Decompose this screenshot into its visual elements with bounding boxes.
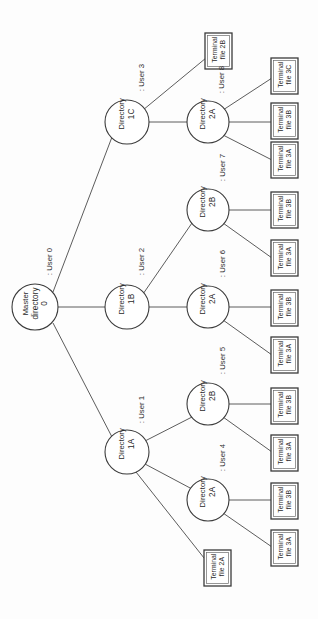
leaf-box-leaf-2a[interactable] xyxy=(204,550,231,586)
leaf-box-leaf-3a-2[interactable] xyxy=(271,240,298,276)
edges-group xyxy=(53,58,272,563)
leaf-box-leaf-3a-1[interactable] xyxy=(271,142,298,178)
edge-dir-1a-to-dir-2a-u4 xyxy=(145,464,192,489)
tree-graphics-layer xyxy=(0,0,318,619)
leaf-box-leaf-3a-4[interactable] xyxy=(271,435,298,471)
node-directory-dir-2a-u4[interactable] xyxy=(187,479,229,521)
node-directory-dir-2b-u5[interactable] xyxy=(187,383,229,425)
edge-master-to-dir-1c xyxy=(53,137,112,292)
leaf-box-leaf-3b-2[interactable] xyxy=(271,192,298,228)
node-directory-dir-2a-u8[interactable] xyxy=(187,101,229,143)
leaf-box-leaf-3b-3[interactable] xyxy=(271,290,298,326)
leaf-box-leaf-3c-top[interactable] xyxy=(271,58,298,94)
leaf-box-leaf-3a-5[interactable] xyxy=(271,530,298,566)
leaf-box-leaf-3b-4[interactable] xyxy=(271,388,298,424)
edge-dir-2a-u4-to-leaf-3a-5 xyxy=(223,513,272,547)
edge-dir-2b-u7-to-leaf-3a-2 xyxy=(223,223,272,258)
edge-master-to-dir-1a xyxy=(53,323,112,437)
node-directory-dir-2a-u6[interactable] xyxy=(187,286,229,328)
edge-dir-1c-to-leaf-2b xyxy=(143,58,206,110)
node-directory-dir-1a[interactable] xyxy=(105,430,149,474)
leaf-box-leaf-2b[interactable] xyxy=(205,33,232,69)
directory-tree-diagram: Masterdirectory0Directory1CDirectory1BDi… xyxy=(0,0,318,619)
nodes-group xyxy=(12,100,229,521)
leaf-box-leaf-3b-1[interactable] xyxy=(271,103,298,139)
edge-dir-1a-to-dir-2b-u5 xyxy=(145,417,192,441)
node-directory-dir-2b-u7[interactable] xyxy=(187,189,229,231)
edge-dir-2a-u8-to-leaf-3c-top xyxy=(223,78,272,110)
edge-dir-2b-u5-to-leaf-3a-4 xyxy=(223,417,272,452)
node-master-directory-master[interactable] xyxy=(12,284,58,330)
node-directory-dir-1c[interactable] xyxy=(105,100,149,144)
edge-dir-1b-to-dir-2b-u7 xyxy=(143,223,192,294)
leaf-box-leaf-3a-3[interactable] xyxy=(271,337,298,373)
edge-dir-2a-u6-to-leaf-3a-3 xyxy=(223,320,272,355)
node-directory-dir-1b[interactable] xyxy=(105,285,149,329)
leaf-box-leaf-3b-5[interactable] xyxy=(271,483,298,519)
edge-dir-2a-u8-to-leaf-3a-1 xyxy=(223,135,272,160)
